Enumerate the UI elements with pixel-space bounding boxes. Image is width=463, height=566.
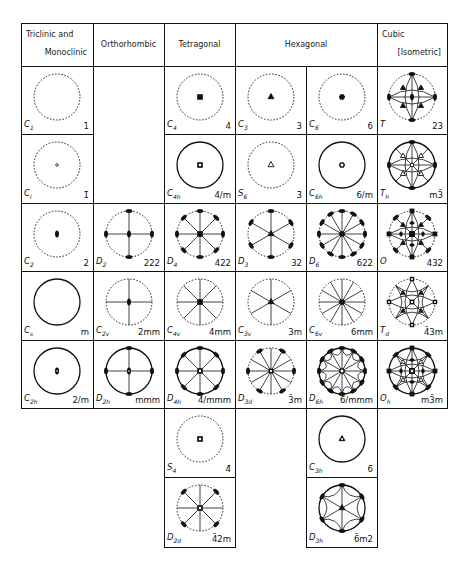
point-group-cell-c1: C11 <box>21 66 93 134</box>
schoenflies-subscript: 2 <box>30 261 34 268</box>
hermann-mauguin-symbol: 432 <box>427 258 443 268</box>
stereogram-icon <box>245 71 297 123</box>
header-divider <box>21 66 447 67</box>
point-group-cell-ci: Ci1̄ <box>21 134 93 203</box>
schoenflies-subscript: 2h <box>103 398 111 405</box>
hermann-mauguin-symbol: 6̄ <box>368 464 373 474</box>
hermann-mauguin-symbol: 4/m <box>214 190 231 200</box>
row-divider <box>21 340 93 341</box>
hermann-mauguin-symbol: 622 <box>357 258 373 268</box>
column-divider <box>235 23 236 66</box>
stereogram-icon <box>316 413 368 465</box>
stereogram-icon <box>316 71 368 123</box>
point-group-cell-d3d: D3d3̄m <box>235 340 306 408</box>
stereogram-icon <box>386 208 438 260</box>
schoenflies-symbol: O <box>380 256 387 268</box>
column-header-cubic: [Isometric]Cubic <box>377 23 447 66</box>
point-group-cell-d3: D332 <box>235 203 306 271</box>
stereogram-icon <box>245 276 297 328</box>
schoenflies-symbol: D2d <box>167 532 181 544</box>
column-divider <box>164 66 165 408</box>
schoenflies-subscript: 3 <box>244 124 248 131</box>
hermann-mauguin-symbol: 1 <box>84 121 89 131</box>
schoenflies-symbol: C2 <box>24 256 34 268</box>
schoenflies-symbol: Th <box>380 188 389 200</box>
hermann-mauguin-symbol: 6mm <box>351 327 373 337</box>
schoenflies-symbol: D3h <box>309 532 323 544</box>
point-group-cell-T: T23 <box>377 66 447 134</box>
schoenflies-subscript: s <box>30 330 33 337</box>
point-group-cell-c6: C66 <box>306 66 377 134</box>
header-text: Tetragonal <box>164 39 235 50</box>
stereogram-icon <box>245 345 297 397</box>
column-header-tetra: Tetragonal <box>164 23 235 66</box>
schoenflies-subscript: 3d <box>245 398 253 405</box>
hermann-mauguin-symbol: m <box>81 327 89 337</box>
hermann-mauguin-symbol: 222 <box>144 258 160 268</box>
hermann-mauguin-symbol: 4̄2m <box>212 534 231 544</box>
table-border-left <box>21 23 22 408</box>
column-header-ortho: Orthorhombic <box>93 23 164 66</box>
schoenflies-subscript: d <box>385 330 389 337</box>
stereogram-icon <box>174 139 226 191</box>
schoenflies-subscript: 2 <box>103 261 107 268</box>
schoenflies-subscript: 2v <box>102 330 109 337</box>
schoenflies-symbol: C2h <box>24 393 38 405</box>
extra-row-divider <box>306 477 377 478</box>
schoenflies-subscript: 6 <box>316 261 320 268</box>
schoenflies-subscript: 6 <box>243 193 247 200</box>
schoenflies-subscript: 6v <box>315 330 322 337</box>
hermann-mauguin-symbol: 422 <box>215 258 231 268</box>
point-group-cell-c4h: C4h4/m <box>164 134 235 203</box>
point-group-cell-c2h: C2h2/m <box>21 340 93 408</box>
schoenflies-subscript: h <box>385 193 389 200</box>
stereogram-icon <box>174 482 226 534</box>
hermann-mauguin-symbol: 4̄ <box>226 464 231 474</box>
hermann-mauguin-symbol: mmm <box>135 395 160 405</box>
extra-row-divider <box>164 477 235 478</box>
stereogram-icon <box>31 345 83 397</box>
stereogram-icon <box>174 208 226 260</box>
table-border-right <box>447 23 448 409</box>
schoenflies-symbol: D4 <box>167 256 177 268</box>
schoenflies-letter: O <box>380 393 387 403</box>
point-group-cell-d2d: D2d4̄2m <box>164 477 235 547</box>
hermann-mauguin-symbol: 2 <box>84 258 89 268</box>
header-text: Hexagonal <box>235 39 377 50</box>
stereogram-icon <box>103 208 155 260</box>
schoenflies-symbol: C3v <box>238 325 251 337</box>
hermann-mauguin-symbol: m3̄m <box>421 395 443 405</box>
column-divider <box>235 66 236 408</box>
schoenflies-subscript: i <box>30 193 32 200</box>
stereogram-icon <box>386 276 438 328</box>
hermann-mauguin-symbol: 3̄m <box>288 395 302 405</box>
hermann-mauguin-symbol: 1̄ <box>84 190 89 200</box>
point-group-cell-d4: D4422 <box>164 203 235 271</box>
point-group-cell-cs: Csm <box>21 271 93 340</box>
schoenflies-subscript: 4 <box>174 261 178 268</box>
schoenflies-symbol: C6h <box>309 188 323 200</box>
schoenflies-subscript: 6h <box>316 398 324 405</box>
stereogram-icon <box>316 276 368 328</box>
stereogram-icon <box>316 208 368 260</box>
extra-border-right <box>377 408 378 548</box>
row-divider <box>93 271 164 272</box>
point-group-cell-c3h: C3h6̄ <box>306 408 377 477</box>
schoenflies-subscript: 3h <box>315 467 323 474</box>
extra-border-right <box>235 408 236 548</box>
schoenflies-symbol: C3 <box>238 119 248 131</box>
schoenflies-subscript: 1 <box>30 124 34 131</box>
point-group-cell-c6v: C6v6mm <box>306 271 377 340</box>
point-group-cell-c2: C22 <box>21 203 93 271</box>
schoenflies-symbol: D3 <box>238 256 248 268</box>
hermann-mauguin-symbol: 6 <box>368 121 373 131</box>
header-text: [Isometric] <box>398 47 441 58</box>
stereogram-icon <box>31 208 83 260</box>
table-border-top <box>21 23 447 24</box>
stereogram-icon <box>386 71 438 123</box>
schoenflies-subscript: 2d <box>174 537 182 544</box>
schoenflies-symbol: C4h <box>167 188 181 200</box>
row-divider <box>164 134 447 135</box>
stereogram-icon <box>31 71 83 123</box>
point-group-cell-d2h: D2hmmm <box>93 340 164 408</box>
